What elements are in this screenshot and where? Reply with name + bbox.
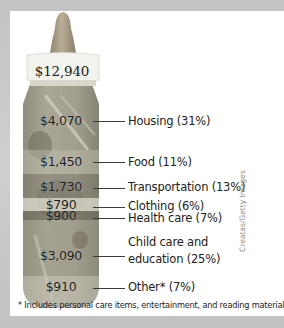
amount-health-care: $900 [21,208,101,223]
leader-line-other [93,288,125,289]
amount-food: $1,450 [21,154,101,169]
label-child-care-line2: education (25%) [128,252,220,267]
label-other: Other* (7%) [128,280,195,295]
label-transportation: Transportation (13%) [128,180,245,195]
label-housing: Housing (31%) [128,114,210,129]
leader-line-transportation [93,188,125,189]
footnote: * Includes personal care items, entertai… [18,300,284,310]
photo-credit: Creatas/Getty Images [238,170,247,252]
label-food: Food (11%) [128,155,192,170]
label-health-care: Health care (7%) [128,211,222,226]
label-child-care-line1: Child care and [128,235,208,250]
leader-line-health-care [93,218,125,219]
total-amount: $12,940 [22,63,102,79]
amount-child-care: $3,090 [21,248,101,263]
leader-line-food [93,162,125,163]
leader-line-clothing [93,207,125,208]
amount-housing: $4,070 [21,113,101,128]
leader-line-housing [93,121,125,122]
amount-other: $910 [21,279,101,294]
leader-line-child-care [93,256,125,257]
amount-transportation: $1,730 [21,179,101,194]
